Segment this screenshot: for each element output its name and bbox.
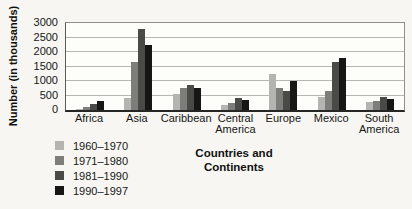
bar [380,97,387,110]
legend-item: 1990–1997 [55,183,128,198]
x-category-label: Africa [65,113,113,135]
bar [242,100,249,110]
legend-label: 1960–1970 [73,140,128,152]
bar [221,105,228,110]
bar [290,81,297,110]
x-category-label: Central America [212,113,260,135]
bar [318,97,325,110]
bar [269,74,276,110]
legend-swatch-icon [55,171,64,180]
y-axis-ticks: 050010001500200025003000 [0,22,61,109]
x-axis-title-line2: Continents [148,160,320,174]
y-tick-label: 3000 [34,16,58,28]
bar-group [211,23,259,110]
legend-label: 1971–1980 [73,155,128,167]
y-tick-label: 2000 [34,45,58,57]
bar [138,29,145,110]
bar [373,101,380,110]
bar [387,99,394,110]
x-category-label: Mexico [307,113,355,135]
legend-item: 1960–1970 [55,138,128,153]
bar [339,58,346,110]
bar [228,103,235,110]
bar-group [307,23,355,110]
legend-swatch-icon [55,186,64,195]
bar [90,104,97,110]
y-tick-label: 2500 [34,31,58,43]
bar [97,101,104,110]
x-category-label: South America [355,113,403,135]
bar [366,102,373,110]
bar [187,85,194,110]
y-tick-label: 1000 [34,74,58,86]
bar [283,91,290,110]
bar [145,45,152,110]
x-axis-category-labels: AfricaAsiaCaribbeanCentral AmericaEurope… [65,113,403,135]
bar-group [356,23,404,110]
bar [235,98,242,110]
legend-label: 1990–1997 [73,185,128,197]
bar [276,88,283,110]
x-category-label: Asia [113,113,161,135]
bar [76,109,83,110]
bar-group [66,23,114,110]
bar-group [114,23,162,110]
legend-swatch-icon [55,141,64,150]
x-axis-title-line1: Countries and [148,146,320,160]
bar [194,88,201,110]
bar [332,62,339,110]
bar-group [259,23,307,110]
bar [173,94,180,110]
y-tick-label: 500 [40,89,58,101]
bar-group [163,23,211,110]
y-tick-label: 0 [52,103,58,115]
bar [131,62,138,110]
legend-item: 1971–1980 [55,153,128,168]
y-tick-label: 1500 [34,60,58,72]
legend-item: 1981–1990 [55,168,128,183]
plot-area [65,22,405,112]
legend: 1960–19701971–19801981–19901990–1997 [55,138,128,198]
x-category-label: Europe [259,113,307,135]
chart-figure: Number (in thousands) 050010001500200025… [0,0,412,209]
x-axis-title: Countries and Continents [148,146,320,174]
bar [180,88,187,110]
bar [124,98,131,110]
bar [325,91,332,110]
legend-swatch-icon [55,156,64,165]
x-category-label: Caribbean [161,113,212,135]
bar [83,107,90,110]
legend-label: 1981–1990 [73,170,128,182]
